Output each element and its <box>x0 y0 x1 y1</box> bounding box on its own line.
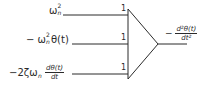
input-label-3: −2ζωn dθ(t) dt <box>9 64 64 81</box>
theta-of-t: θ(t) <box>51 34 69 45</box>
subscript: n <box>46 39 50 45</box>
input-label-2: − ω2nθ(t) <box>26 35 69 45</box>
coefficient: −2ζω <box>9 67 38 78</box>
sub-sup: 2n <box>46 35 51 45</box>
gain-label-2: 1 <box>121 34 126 42</box>
subscript: n <box>38 72 42 79</box>
second-derivative-fraction: d²θ(t) dt² <box>175 25 197 42</box>
output-label: − d²θ(t) dt² <box>165 25 197 42</box>
subscript: n <box>57 10 61 16</box>
minus-sign: − <box>165 28 173 38</box>
fraction-denominator: dt <box>45 73 64 81</box>
omega-symbol: ω <box>38 34 46 45</box>
gain-label-3: 1 <box>121 64 126 72</box>
sub-sup: 2n <box>57 6 62 16</box>
minus-sign: − <box>26 34 34 45</box>
fraction-numerator: dθ(t) <box>45 64 64 73</box>
derivative-fraction: dθ(t) dt <box>45 64 64 81</box>
amplifier-triangle <box>128 9 158 79</box>
gain-label-1: 1 <box>121 5 126 13</box>
fraction-numerator: d²θ(t) <box>175 25 197 34</box>
omega-symbol: ω <box>49 5 57 16</box>
fraction-denominator: dt² <box>175 34 197 42</box>
input-label-1: ω2n <box>49 6 62 16</box>
